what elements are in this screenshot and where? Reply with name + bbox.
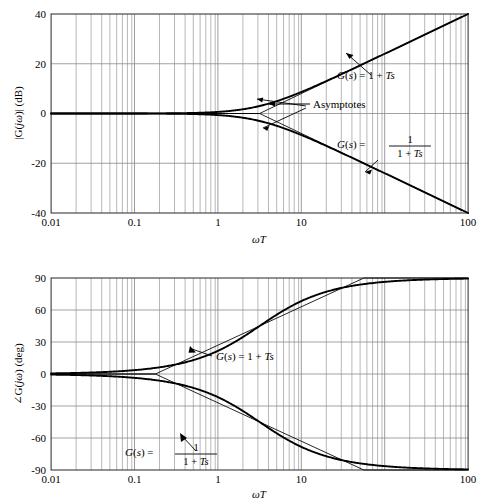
magnitude-xaxis-title: ωT: [252, 233, 267, 245]
phase-lead-label: G(s) = 1 + Ts: [216, 350, 274, 363]
magnitude-bode-plot: 40 20 0 -20 -40 0.01 0.1 1 10 100 ωT |G(…: [0, 0, 491, 250]
phase-xtick-01: 0.1: [128, 473, 142, 485]
phase-yaxis-title: ∠G(jω) (deg): [12, 343, 25, 405]
phase-ytick-minus60: -60: [31, 432, 46, 444]
magnitude-yaxis-title: |G(jω)| (dB): [12, 86, 25, 140]
phase-ytick-90: 90: [35, 272, 47, 284]
magnitude-asymptotes-label: Asymptotes: [313, 98, 366, 110]
magnitude-xtick-001: 0.01: [41, 216, 60, 228]
phase-ytick-minus30: -30: [31, 400, 46, 412]
magnitude-ytick-40: 40: [35, 8, 47, 20]
phase-lag-numerator: 1: [193, 442, 198, 453]
magnitude-lag-label: G(s) = 1 1 + Ts: [337, 134, 431, 159]
magnitude-lag-numerator: 1: [407, 134, 412, 145]
svg-text:G(s) =: G(s) =: [337, 138, 366, 151]
magnitude-lead-label: G(s) = 1 + Ts: [337, 69, 395, 82]
phase-xaxis-title: ωT: [252, 488, 267, 500]
magnitude-lag-denominator: 1 + Ts: [397, 148, 422, 159]
bode-plot-figure: 40 20 0 -20 -40 0.01 0.1 1 10 100 ωT |G(…: [0, 0, 491, 500]
phase-ytick-0: 0: [41, 368, 47, 380]
phase-ytick-30: 30: [35, 336, 47, 348]
phase-xtick-100: 100: [460, 473, 477, 485]
phase-lag-denominator: 1 + Ts: [183, 456, 208, 467]
magnitude-ytick-20: 20: [35, 58, 47, 70]
magnitude-xtick-100: 100: [460, 216, 477, 228]
magnitude-ytick-minus20: -20: [31, 157, 46, 169]
magnitude-xtick-10: 10: [296, 216, 308, 228]
phase-ytick-60: 60: [35, 304, 47, 316]
phase-xtick-1: 1: [215, 473, 221, 485]
magnitude-xtick-01: 0.1: [128, 216, 142, 228]
phase-xtick-001: 0.01: [41, 473, 60, 485]
magnitude-ytick-0: 0: [41, 107, 47, 119]
phase-lag-label: G(s) = 1 1 + Ts: [125, 442, 217, 467]
phase-curve-lag: [51, 375, 468, 470]
phase-xtick-10: 10: [296, 473, 308, 485]
phase-bode-plot: 90 60 30 0 -30 -60 -90 0.01 0.1 1 10 100…: [0, 250, 491, 500]
svg-text:G(s) =: G(s) =: [125, 446, 154, 459]
magnitude-xtick-1: 1: [215, 216, 221, 228]
